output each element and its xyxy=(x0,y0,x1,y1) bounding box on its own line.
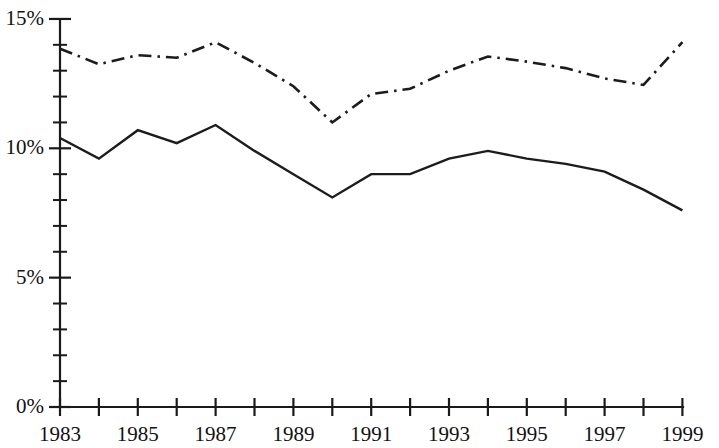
line-chart: 15%10%5%0% 19831985198719891991199319951… xyxy=(0,0,719,448)
y-axis-tick-label: 15% xyxy=(6,6,45,31)
axes xyxy=(49,19,683,416)
x-axis-tick-label: 1999 xyxy=(661,422,703,447)
chart-plot-area xyxy=(0,0,719,448)
x-axis-tick-label: 1983 xyxy=(39,422,81,447)
series-line-solid-series xyxy=(60,125,682,210)
y-axis-tick-label: 10% xyxy=(6,135,45,160)
x-axis-tick-label: 1993 xyxy=(428,422,470,447)
series-line-dash-dot-series xyxy=(60,42,682,122)
y-axis-tick-label: 0% xyxy=(16,394,44,419)
x-axis-tick-label: 1987 xyxy=(195,422,237,447)
x-axis-tick-label: 1997 xyxy=(584,422,626,447)
x-axis-tick-label: 1989 xyxy=(272,422,314,447)
x-axis-tick-label: 1991 xyxy=(350,422,392,447)
data-series xyxy=(60,42,682,210)
x-axis-tick-label: 1995 xyxy=(506,422,548,447)
y-axis-tick-label: 5% xyxy=(16,265,44,290)
x-axis-tick-label: 1985 xyxy=(117,422,159,447)
